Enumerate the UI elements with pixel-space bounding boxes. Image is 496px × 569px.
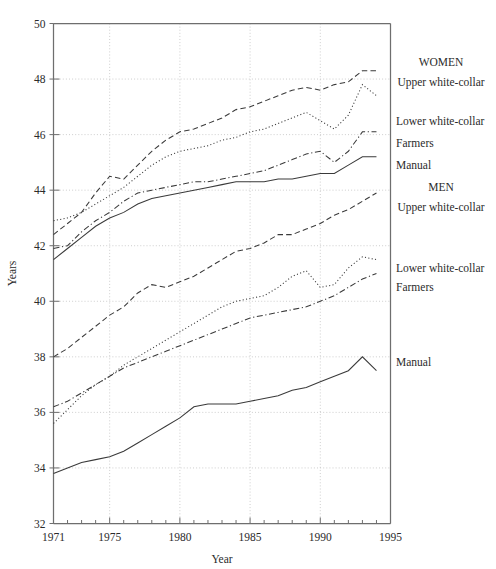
legend-heading-women: WOMEN (419, 56, 464, 68)
line-chart: 32343638404244464850 1971197519801985199… (0, 0, 496, 569)
x-axis-label: Year (211, 553, 232, 565)
x-tick-label: 1975 (98, 531, 121, 543)
x-tick-label: 1971 (42, 531, 65, 543)
x-tick-label: 1990 (309, 531, 332, 543)
legend-men-lower-white-collar: Lower white-collar (396, 262, 485, 274)
y-tick-label: 34 (34, 462, 46, 474)
y-tick-label: 42 (34, 240, 46, 252)
y-tick-label: 32 (34, 518, 46, 530)
legend-men-upper-white-collar: Upper white-collar (397, 201, 484, 214)
legend-men-manual: Manual (396, 356, 431, 368)
y-tick-label: 48 (34, 73, 46, 85)
legend-women-manual: Manual (396, 159, 431, 171)
legend-men-farmers: Farmers (396, 281, 434, 293)
y-tick-label: 38 (34, 351, 46, 363)
y-tick-label: 40 (34, 295, 46, 307)
y-tick-label: 46 (34, 129, 46, 141)
legend-women-farmers: Farmers (396, 137, 434, 149)
legend-women-upper-white-collar: Upper white-collar (397, 76, 484, 89)
x-tick-label: 1995 (379, 531, 402, 543)
x-tick-label: 1985 (239, 531, 262, 543)
y-tick-label: 44 (34, 184, 46, 196)
y-tick-label: 50 (34, 18, 46, 30)
legend-heading-men: MEN (428, 181, 454, 193)
x-tick-label: 1980 (168, 531, 191, 543)
figure-container: 32343638404244464850 1971197519801985199… (0, 0, 496, 569)
y-tick-label: 36 (34, 406, 46, 418)
legend-women-lower-white-collar: Lower white-collar (396, 115, 485, 127)
y-axis-label: Years (6, 260, 18, 286)
